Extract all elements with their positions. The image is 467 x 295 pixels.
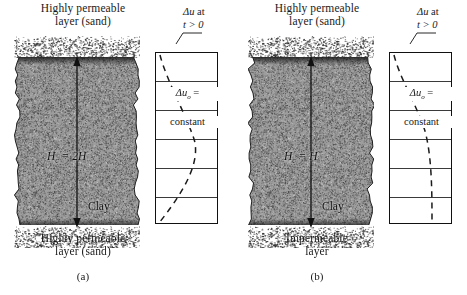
panel-a-excess-pressure-diagram: Δuo = constant (155, 52, 218, 224)
panel-a-soil-label: Clay (88, 200, 110, 212)
panel-b-caption: (b) (242, 270, 392, 282)
panel-b-bottom-layer-label: Impermeable layer (242, 232, 392, 258)
panel-a-caption: (a) (8, 270, 158, 282)
panel-b-drainage-length-label: Hc = H (284, 150, 317, 165)
panel-a-bottom-layer-label: Highly permeable layer (sand) (8, 232, 158, 258)
panel-b-soil-label: Clay (322, 200, 344, 212)
panel-a-top-layer-label: Highly permeable layer (sand) (8, 2, 158, 28)
panel-b-callout-label: Δu at t > 0 (417, 6, 467, 31)
figure-panel-a: Highly permeable layer (sand) Hc = 2H Cl… (0, 0, 233, 295)
panel-b-initial-pressure-value: constant (390, 116, 453, 128)
panel-b-soil-column: Hc = H Clay (248, 36, 374, 248)
panel-a-isochrone-curve (156, 53, 219, 225)
panel-a-drainage-length-label: Hc = 2H (47, 150, 86, 165)
panel-a-initial-pressure-label: Δuo = (156, 87, 219, 101)
figure-panel-b: Highly permeable layer (sand) Hc = H Cla… (234, 0, 467, 295)
panel-b-isochrone-curve (390, 53, 453, 225)
panel-b-drainage-path-arrow (248, 36, 374, 248)
panel-b-excess-pressure-diagram: Δuo = constant (389, 52, 452, 224)
panel-b-top-layer-label: Highly permeable layer (sand) (242, 2, 392, 28)
panel-a-soil-column: Hc = 2H Clay (14, 36, 140, 248)
panel-a-drainage-path-arrow (14, 36, 140, 248)
panel-b-initial-pressure-label: Δuo = (390, 87, 453, 101)
panel-a-initial-pressure-value: constant (156, 116, 219, 128)
